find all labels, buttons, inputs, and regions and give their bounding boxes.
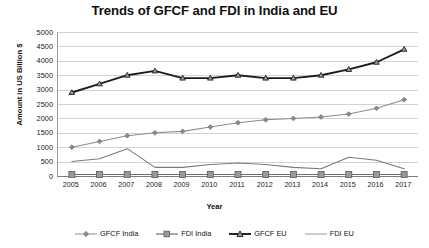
- data-point-marker: [180, 129, 185, 134]
- chart-legend: GFCF IndiaFDI IndiaGFCF EUFDI EU: [0, 224, 429, 242]
- y-axis-tick-label: 0: [20, 172, 53, 181]
- y-axis-tick-label: 2500: [20, 100, 53, 109]
- y-axis-tick-label: 2000: [20, 114, 53, 123]
- data-point-marker: [236, 120, 241, 125]
- legend-item-label: FDI EU: [330, 229, 354, 238]
- data-point-marker: [69, 145, 74, 150]
- data-point-marker: [263, 117, 268, 122]
- data-point-marker: [318, 172, 324, 178]
- y-axis-tick-label: 1000: [20, 143, 53, 152]
- data-point-marker: [374, 106, 379, 111]
- data-point-marker: [180, 172, 186, 178]
- series-gfcf-eu: [69, 46, 407, 94]
- data-point-marker: [235, 172, 241, 178]
- line-marker-icon: [305, 224, 327, 242]
- data-point-marker: [346, 112, 351, 117]
- data-point-marker: [97, 139, 102, 144]
- data-point-marker: [152, 172, 158, 178]
- data-point-marker: [402, 97, 407, 102]
- series-line: [72, 149, 404, 169]
- series-line: [72, 49, 404, 92]
- data-point-marker: [401, 46, 407, 51]
- y-axis-tick-label: 4500: [20, 42, 53, 51]
- data-point-marker: [290, 172, 296, 178]
- y-axis-tick-label: 1500: [20, 128, 53, 137]
- data-point-marker: [319, 115, 324, 120]
- legend-item-fdi-eu[interactable]: FDI EU: [305, 224, 354, 242]
- series-gfcf-india: [69, 97, 406, 149]
- plot-area: [57, 32, 418, 177]
- y-axis-tick-label: 500: [20, 157, 53, 166]
- data-point-marker: [125, 133, 130, 138]
- legend-item-gfcf-eu[interactable]: GFCF EU: [229, 224, 286, 242]
- data-point-marker: [97, 172, 103, 178]
- data-point-marker: [263, 172, 269, 178]
- data-point-marker: [346, 172, 352, 178]
- series-fdi-eu: [72, 149, 404, 169]
- data-point-marker: [373, 172, 379, 178]
- legend-item-label: GFCF India: [100, 229, 138, 238]
- y-axis-tick-label: 5000: [20, 28, 53, 37]
- y-axis-tick-label: 4000: [20, 56, 53, 65]
- x-axis-title: Year: [0, 202, 429, 211]
- data-point-marker: [69, 172, 75, 178]
- diamond-marker-icon: [75, 224, 97, 242]
- x-axis-tick-label: 2017: [386, 180, 420, 189]
- data-point-marker: [207, 172, 213, 178]
- y-axis-tick-label: 3500: [20, 71, 53, 80]
- chart-container: Trends of GFCF and FDI in India and EU A…: [0, 0, 429, 248]
- y-axis-tick-label: 3000: [20, 85, 53, 94]
- data-point-marker: [153, 130, 158, 135]
- series-layer: [58, 32, 418, 176]
- legend-item-gfcf-india[interactable]: GFCF India: [75, 224, 138, 242]
- chart-title: Trends of GFCF and FDI in India and EU: [0, 3, 429, 18]
- legend-item-label: FDI India: [181, 229, 211, 238]
- data-point-marker: [208, 125, 213, 130]
- square-marker-icon: [156, 224, 178, 242]
- data-point-marker: [124, 172, 130, 178]
- data-point-marker: [291, 116, 296, 121]
- legend-item-label: GFCF EU: [254, 229, 286, 238]
- triangle-marker-icon: [229, 224, 251, 242]
- legend-item-fdi-india[interactable]: FDI India: [156, 224, 211, 242]
- data-point-marker: [401, 172, 407, 178]
